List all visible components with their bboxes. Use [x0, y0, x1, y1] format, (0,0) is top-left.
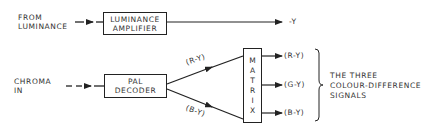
pal-decoder-block: PAL DECODER — [104, 74, 167, 98]
matrix-letter: M — [249, 56, 255, 66]
matrix-block: M A T R I X — [243, 48, 262, 123]
pal-decoder-line2: DECODER — [115, 86, 157, 95]
output-gy-label: (G-Y) — [284, 80, 305, 89]
luminance-input-label-line1: FROM — [18, 13, 68, 22]
grouping-brace — [315, 49, 323, 121]
caption-line2: COLOUR-DIFFERENCE — [330, 81, 421, 91]
output-ry-label: (R-Y) — [284, 51, 304, 60]
luminance-output-label: -Y — [289, 17, 297, 26]
pal-decoder-line1: PAL — [128, 77, 143, 86]
output-by-label: (B-Y) — [284, 108, 304, 117]
luminance-amplifier-line1: LUMINANCE — [110, 15, 160, 24]
matrix-letter: R — [250, 86, 255, 96]
caption-line1: THE THREE — [330, 71, 421, 81]
matrix-letter: A — [250, 66, 255, 76]
luminance-amplifier-block: LUMINANCE AMPLIFIER — [103, 12, 167, 35]
luminance-input-label: FROM LUMINANCE — [18, 13, 68, 31]
matrix-letter: T — [250, 76, 255, 86]
luminance-input-label-line2: LUMINANCE — [18, 22, 68, 31]
matrix-letter: X — [250, 106, 255, 116]
colour-difference-caption: THE THREE COLOUR-DIFFERENCE SIGNALS — [330, 71, 421, 101]
chroma-input-label-line1: CHROMA — [14, 77, 51, 86]
luminance-amplifier-line2: AMPLIFIER — [113, 24, 157, 33]
chroma-input-label: CHROMA IN — [14, 77, 51, 95]
decoder-to-matrix-ry-arrow — [167, 67, 212, 84]
matrix-letter: I — [251, 96, 253, 106]
caption-line3: SIGNALS — [330, 91, 421, 101]
chroma-input-label-line2: IN — [14, 86, 51, 95]
